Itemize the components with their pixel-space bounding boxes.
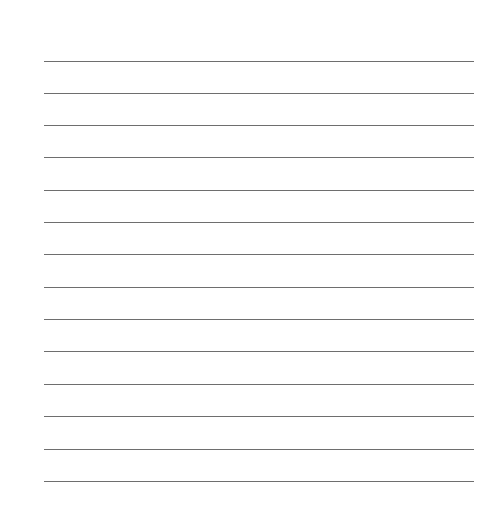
ruled-line [44,481,474,482]
ruled-line [44,384,474,385]
ruled-line [44,254,474,255]
ruled-line [44,449,474,450]
ruled-line [44,61,474,62]
ruled-line [44,351,474,352]
ruled-line [44,125,474,126]
ruled-line [44,93,474,94]
ruled-line [44,287,474,288]
ruled-line [44,222,474,223]
ruled-line [44,190,474,191]
ruled-line [44,157,474,158]
ruled-line [44,319,474,320]
lined-page [0,0,498,515]
ruled-line [44,416,474,417]
